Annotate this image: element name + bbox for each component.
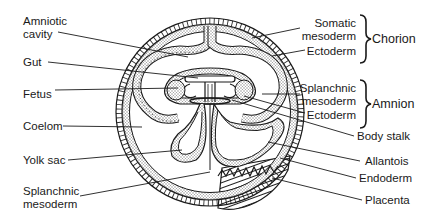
label-splanchnic-mesoderm-left-line2: mesoderm <box>23 198 77 210</box>
label-amnion-group: Amnion <box>372 98 414 111</box>
fetus-body-left <box>167 80 185 100</box>
label-splanchnic-mesoderm-left-line1: Splanchnic <box>23 185 79 197</box>
label-yolk-sac: Yolk sac <box>23 154 65 166</box>
label-allantois: Allantois <box>365 155 408 167</box>
label-body-stalk: Body stalk <box>357 130 410 142</box>
label-somatic-mesoderm-line2: mesoderm <box>302 30 356 42</box>
label-coelom: Coelom <box>23 120 63 132</box>
label-endoderm: Endoderm <box>359 172 412 184</box>
label-chorion-ectoderm: Ectoderm <box>307 45 356 57</box>
label-amniotic-cavity-line1: Amniotic <box>23 15 67 27</box>
label-splanchnic-mesoderm-right-line2: mesoderm <box>302 95 356 107</box>
label-amnion-ectoderm: Ectoderm <box>307 109 356 121</box>
label-placenta: Placenta <box>365 194 410 206</box>
fetus-gut-top <box>185 76 235 82</box>
label-amniotic-cavity-line2: cavity <box>23 28 52 40</box>
label-somatic-mesoderm-line1: Somatic <box>314 17 356 29</box>
amnion-brace <box>360 80 371 128</box>
label-splanchnic-mesoderm-right-line1: Splanchnic <box>300 82 356 94</box>
label-chorion-group: Chorion <box>372 33 416 46</box>
chorion-brace <box>360 15 371 63</box>
label-gut: Gut <box>23 56 42 68</box>
label-fetus: Fetus <box>23 88 52 100</box>
